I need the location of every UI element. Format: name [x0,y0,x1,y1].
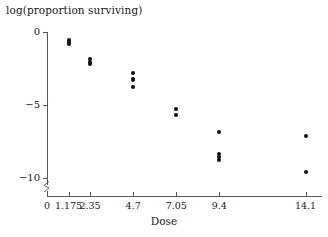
x-tick-mark [133,192,134,197]
y-axis-break-icon [43,181,53,193]
x-tick-label: 2.35 [80,200,101,211]
x-tick-mark [219,192,220,197]
data-point [131,77,135,81]
data-point [217,130,221,134]
data-point [217,158,221,162]
x-tick-mark [90,192,91,197]
x-tick-label: 0 [44,200,50,211]
x-tick-label: 1.175 [55,200,82,211]
data-point [88,62,92,66]
x-axis-title: Dose [0,215,328,227]
x-axis-line [47,196,322,197]
x-tick-label: 4.7 [126,200,141,211]
data-point [67,38,71,42]
y-tick-mark [43,32,48,33]
y-tick-label: −5 [25,99,40,110]
data-point [131,85,135,89]
data-point [217,155,221,159]
data-point [67,42,71,46]
y-tick-label: 0 [34,26,40,37]
y-tick-label: −10 [19,172,40,183]
data-point [174,107,178,111]
data-point [67,40,71,44]
x-tick-label: 9.4 [212,200,227,211]
data-point [88,60,92,64]
x-tick-mark [176,192,177,197]
data-point [131,71,135,75]
data-point [304,134,308,138]
scatter-plot-figure: log(proportion surviving) 0−5−10 01.1752… [0,0,328,237]
y-tick-mark [43,178,48,179]
x-tick-mark [69,192,70,197]
data-point [131,78,135,82]
data-point [217,152,221,156]
y-tick-mark [43,105,48,106]
x-tick-label: 7.05 [166,200,187,211]
x-tick-label: 14.1 [295,200,316,211]
data-point [304,170,308,174]
data-point [174,113,178,117]
data-point [88,57,92,61]
y-axis-title: log(proportion surviving) [6,4,142,16]
x-tick-mark [306,192,307,197]
y-axis-line [47,32,48,185]
